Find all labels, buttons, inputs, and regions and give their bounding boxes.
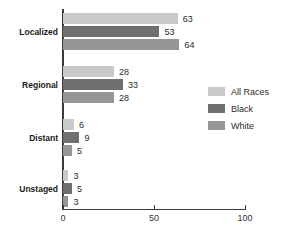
x-axis-tick xyxy=(245,205,246,210)
bar-localized-white xyxy=(63,39,179,50)
bar-value-label: 28 xyxy=(119,93,129,103)
bar-regional-all-races xyxy=(63,66,114,77)
legend-label: All Races xyxy=(231,87,269,97)
bar-value-label: 28 xyxy=(119,67,129,77)
category-label-localized: Localized xyxy=(19,27,58,37)
x-axis-tick xyxy=(63,205,64,210)
bar-chart: 635364283328695353LocalizedRegionalDista… xyxy=(0,0,285,238)
bar-value-label: 53 xyxy=(164,27,174,37)
bar-value-label: 3 xyxy=(73,171,78,181)
x-axis-tick-label: 50 xyxy=(149,213,159,223)
bar-value-label: 33 xyxy=(128,80,138,90)
bar-distant-all-races xyxy=(63,119,74,130)
category-label-distant: Distant xyxy=(29,133,58,143)
bar-regional-black xyxy=(63,79,123,90)
bar-distant-white xyxy=(63,145,72,156)
x-axis-tick-label: 0 xyxy=(60,213,65,223)
chart-legend: All RacesBlackWhite xyxy=(208,85,269,136)
bar-value-label: 5 xyxy=(77,184,82,194)
bar-value-label: 5 xyxy=(77,146,82,156)
legend-item-white: White xyxy=(208,119,269,132)
bar-value-label: 64 xyxy=(184,40,194,50)
bar-value-label: 6 xyxy=(79,120,84,130)
bar-localized-all-races xyxy=(63,13,178,24)
legend-label: White xyxy=(231,121,254,131)
category-label-unstaged: Unstaged xyxy=(19,184,58,194)
category-label-regional: Regional xyxy=(22,80,58,90)
bar-unstaged-black xyxy=(63,183,72,194)
bar-value-label: 63 xyxy=(183,14,193,24)
legend-swatch-icon xyxy=(208,104,225,113)
legend-item-all-races: All Races xyxy=(208,85,269,98)
x-axis-tick-label: 100 xyxy=(237,213,252,223)
bar-localized-black xyxy=(63,26,159,37)
bar-value-label: 3 xyxy=(73,197,78,207)
legend-swatch-icon xyxy=(208,121,225,130)
x-axis-tick xyxy=(154,205,155,210)
legend-label: Black xyxy=(231,104,253,114)
bar-distant-black xyxy=(63,132,79,143)
legend-item-black: Black xyxy=(208,102,269,115)
bar-value-label: 9 xyxy=(84,133,89,143)
bar-regional-white xyxy=(63,92,114,103)
legend-swatch-icon xyxy=(208,87,225,96)
bar-unstaged-all-races xyxy=(63,170,68,181)
